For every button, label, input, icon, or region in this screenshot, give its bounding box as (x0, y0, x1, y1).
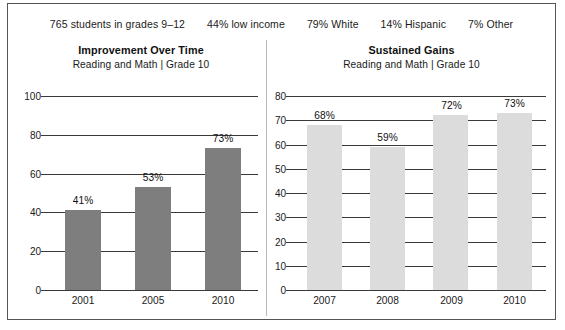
x-axis-line (48, 290, 258, 291)
bar-value-label: 68% (293, 110, 356, 121)
header-stat-value: 79% (307, 18, 328, 30)
y-axis-tick-mark (41, 290, 48, 291)
y-axis-tick-label: 20 (267, 237, 286, 248)
y-axis-tick-mark (41, 174, 48, 175)
y-axis-tick-mark (286, 217, 293, 218)
y-axis-tick-label: 40 (267, 188, 286, 199)
y-axis-tick-mark (286, 96, 293, 97)
x-axis-tick-label: 2005 (118, 295, 188, 306)
y-axis-tick-mark (286, 242, 293, 243)
y-axis-tick-label: 60 (267, 140, 286, 151)
header-stat-value: 7% (468, 18, 483, 30)
x-axis-line (293, 290, 546, 291)
header-stat-2: 79% White (307, 18, 359, 30)
plot-area-left: 02040608010041%200153%200573%2010 (16, 86, 266, 318)
header-stat-value: 14% (381, 18, 402, 30)
header-stats-row: 765 students in grades 9–1244% low incom… (8, 13, 555, 35)
header-stat-0: 765 students in grades 9–12 (50, 18, 185, 30)
y-axis-tick-mark (286, 193, 293, 194)
bar-value-label: 53% (118, 172, 188, 183)
bar (497, 113, 532, 290)
y-axis-tick-label: 40 (16, 207, 41, 218)
y-axis-tick-mark (286, 145, 293, 146)
y-axis-tick-mark (286, 290, 293, 291)
bar (135, 187, 171, 290)
figure-frame: 765 students in grades 9–1244% low incom… (7, 3, 556, 320)
y-axis-tick-label: 80 (16, 130, 41, 141)
panel-improvement-over-time: Improvement Over Time Reading and Math |… (16, 40, 266, 318)
panel-left-subtitle: Reading and Math | Grade 10 (16, 59, 266, 70)
plot-area-right: 0102030405060708068%200759%200872%200973… (267, 86, 556, 318)
y-axis-tick-label: 100 (16, 91, 41, 102)
bar-value-label: 73% (188, 133, 258, 144)
bar (307, 125, 342, 290)
bar-value-label: 59% (356, 132, 419, 143)
y-axis-tick-mark (41, 212, 48, 213)
header-stat-label: students in grades 9–12 (68, 18, 185, 30)
y-axis-tick-mark (286, 266, 293, 267)
header-stat-4: 7% Other (468, 18, 513, 30)
y-axis-tick-mark (286, 120, 293, 121)
panel-sustained-gains: Sustained Gains Reading and Math | Grade… (267, 40, 556, 318)
bar (205, 148, 241, 290)
y-axis-tick-label: 0 (267, 285, 286, 296)
y-axis-tick-mark (41, 251, 48, 252)
bar-value-label: 41% (48, 195, 118, 206)
y-axis-tick-mark (41, 135, 48, 136)
x-axis-tick-label: 2001 (48, 295, 118, 306)
y-axis-tick-label: 30 (267, 212, 286, 223)
panel-right-subtitle: Reading and Math | Grade 10 (267, 59, 556, 70)
header-stat-label: White (328, 18, 358, 30)
y-axis-tick-label: 0 (16, 285, 41, 296)
bar-chart-left: 02040608010041%200153%200573%2010 (16, 86, 266, 318)
bar (65, 210, 101, 290)
bar-chart-right: 0102030405060708068%200759%200872%200973… (267, 86, 556, 318)
x-axis-tick-label: 2009 (420, 295, 483, 306)
header-stat-value: 44% (207, 18, 228, 30)
y-axis-tick-label: 60 (16, 169, 41, 180)
y-axis-tick-label: 80 (267, 91, 286, 102)
x-axis-tick-label: 2007 (293, 295, 356, 306)
header-stat-label: Hispanic (402, 18, 446, 30)
x-axis-tick-label: 2008 (356, 295, 419, 306)
gridline (48, 96, 258, 97)
header-stat-value: 765 (50, 18, 68, 30)
y-axis-tick-mark (41, 96, 48, 97)
panel-left-title: Improvement Over Time (16, 44, 266, 56)
header-stat-1: 44% low income (207, 18, 285, 30)
header-stat-3: 14% Hispanic (381, 18, 446, 30)
header-stat-label: Other (483, 18, 513, 30)
y-axis-tick-label: 50 (267, 164, 286, 175)
bar (433, 115, 468, 290)
bar-value-label: 73% (483, 98, 546, 109)
header-stat-label: low income (228, 18, 285, 30)
bar-value-label: 72% (420, 100, 483, 111)
gridline (293, 96, 546, 97)
y-axis-tick-mark (286, 169, 293, 170)
x-axis-tick-label: 2010 (188, 295, 258, 306)
y-axis-tick-label: 10 (267, 261, 286, 272)
y-axis-tick-label: 70 (267, 115, 286, 126)
y-axis-tick-label: 20 (16, 246, 41, 257)
panel-right-title: Sustained Gains (267, 44, 556, 56)
x-axis-tick-label: 2010 (483, 295, 546, 306)
bar (370, 147, 405, 290)
